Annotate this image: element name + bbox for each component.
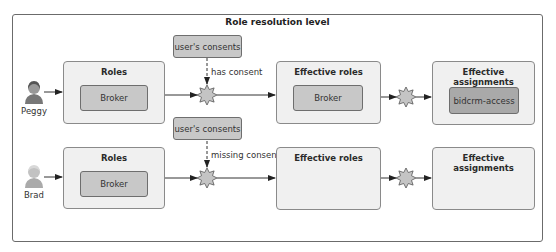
effective-roles-title: Effective roles [277, 153, 380, 163]
effective-roles-box: Effective roles [276, 147, 381, 210]
merge-star-icon [396, 87, 416, 107]
assignment-chip: bidcrm-access [449, 87, 519, 114]
effective-assignments-title: Effective assignments [433, 67, 534, 87]
effective-assignments-box: Effective assignments bidcrm-access [432, 61, 535, 125]
effective-role-chip: Broker [293, 85, 363, 111]
roles-box: Roles Broker [63, 61, 165, 124]
roles-box: Roles Broker [63, 147, 165, 209]
person-male-icon [22, 164, 46, 188]
users-consents-box: user's consents [173, 117, 242, 140]
role-chip: Broker [80, 85, 148, 111]
user-name-label: Peggy [14, 106, 54, 116]
users-consents-box: user's consents [173, 35, 242, 58]
merge-star-icon [197, 85, 217, 105]
roles-title: Roles [64, 153, 164, 163]
effective-assignments-title: Effective assignments [433, 153, 534, 173]
consent-edge-label: has consent [211, 67, 262, 77]
consent-edge-label: missing consent [211, 150, 280, 160]
user-brad [22, 164, 46, 192]
merge-star-icon [197, 168, 217, 188]
role-chip: Broker [80, 171, 148, 197]
roles-title: Roles [64, 67, 164, 77]
effective-roles-title: Effective roles [277, 67, 380, 77]
user-peggy [22, 80, 46, 108]
person-female-icon [22, 80, 46, 104]
user-name-label: Brad [14, 190, 54, 200]
effective-roles-box: Effective roles Broker [276, 61, 381, 124]
merge-star-icon [396, 168, 416, 188]
diagram-title: Role resolution level [12, 17, 543, 27]
effective-assignments-box: Effective assignments [432, 147, 535, 210]
